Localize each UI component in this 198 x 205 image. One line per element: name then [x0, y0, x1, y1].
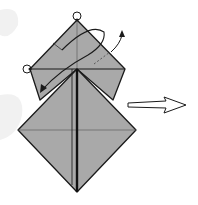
unfold-arrow: [111, 30, 125, 52]
next-step-arrow: [128, 97, 186, 113]
origami-diagram: [0, 0, 198, 205]
